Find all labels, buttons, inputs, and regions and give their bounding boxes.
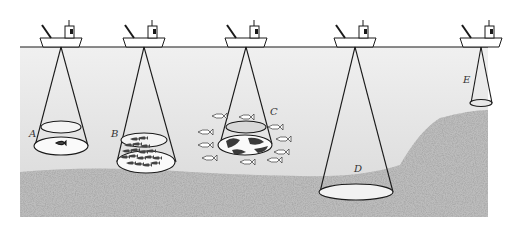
vessel-a-icon bbox=[40, 20, 82, 47]
label-a: A bbox=[28, 128, 36, 139]
vessel-c-icon bbox=[225, 20, 267, 47]
label-e: E bbox=[462, 74, 471, 85]
vessel-b-icon bbox=[123, 20, 165, 47]
label-d: D bbox=[353, 163, 362, 174]
label-c: C bbox=[270, 106, 278, 117]
sonar-diagram: A B C D E bbox=[0, 0, 521, 230]
vessel-e-icon bbox=[460, 20, 502, 47]
diagram-canvas: A B C D E bbox=[0, 0, 521, 230]
label-b: B bbox=[110, 128, 118, 139]
vessel-d-icon bbox=[334, 20, 376, 47]
